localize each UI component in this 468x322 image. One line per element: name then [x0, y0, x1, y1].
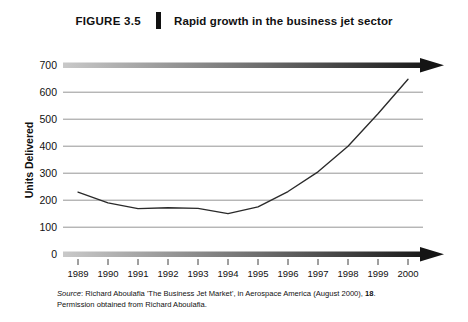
x-axis-tick-labels: 1989199019911992199319941995199619971998… — [67, 268, 418, 279]
x-axis-tick-label: 1991 — [127, 268, 148, 279]
chart-gridlines — [63, 92, 423, 227]
y-axis-tick-labels: 7006005004003002001000 — [39, 59, 57, 260]
x-axis-tick-label: 1997 — [307, 268, 328, 279]
chart-area: 7006005004003002001000 19891990199119921… — [0, 0, 468, 322]
y-axis-title: Units Delivered — [23, 122, 35, 198]
y-axis-tick-label: 300 — [39, 167, 57, 179]
y-axis-tick-label: 200 — [39, 194, 57, 206]
x-axis-tick-label: 1990 — [97, 268, 118, 279]
figure-container: FIGURE 3.5 Rapid growth in the business … — [0, 0, 468, 322]
top-axis-arrow — [63, 58, 444, 73]
x-axis-tick-label: 1993 — [187, 268, 208, 279]
x-axis-ticks — [78, 259, 408, 265]
y-axis-tick-label: 100 — [39, 221, 57, 233]
x-axis-tick-label: 1989 — [67, 268, 88, 279]
bottom-axis-arrow — [63, 247, 444, 262]
y-axis-tick-label: 400 — [39, 140, 57, 152]
y-axis-tick-label: 700 — [39, 59, 57, 71]
x-axis-tick-label: 1992 — [157, 268, 178, 279]
y-axis-tick-label: 500 — [39, 113, 57, 125]
y-axis-tick-label: 0 — [51, 248, 57, 260]
source-label: Source — [57, 289, 81, 298]
source-page: 18 — [365, 289, 373, 298]
source-note: Source: Richard Aboulafia 'The Business … — [57, 288, 457, 310]
source-permission-line: Permission obtained from Richard Aboulaf… — [57, 300, 207, 309]
source-text: : Richard Aboulafia 'The Business Jet Ma… — [81, 289, 365, 298]
x-axis-tick-label: 1995 — [247, 268, 268, 279]
x-axis-tick-label: 1996 — [277, 268, 298, 279]
x-axis-tick-label: 2000 — [397, 268, 418, 279]
line-chart-svg: 7006005004003002001000 19891990199119921… — [0, 0, 468, 322]
x-axis-tick-label: 1999 — [367, 268, 388, 279]
x-axis-tick-label: 1998 — [337, 268, 358, 279]
x-axis-tick-label: 1994 — [217, 268, 238, 279]
y-axis-tick-label: 600 — [39, 86, 57, 98]
source-text-end: . — [374, 289, 376, 298]
